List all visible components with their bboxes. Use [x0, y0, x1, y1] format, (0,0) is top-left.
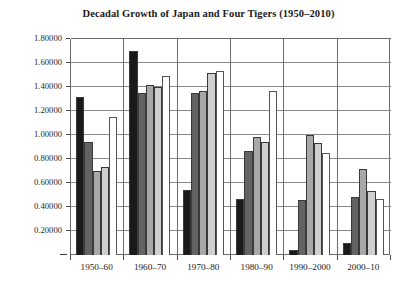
group-separator — [123, 39, 124, 255]
y-tick-label: 1.00000 — [8, 130, 62, 139]
bar — [367, 191, 375, 255]
y-tick-label: 0.80000 — [8, 154, 62, 163]
bar — [191, 93, 199, 255]
y-tick-label: 0.60000 — [8, 178, 62, 187]
y-tick-label: 1.20000 — [8, 106, 62, 115]
zero-dash — [60, 254, 67, 255]
x-tick-label: 2000–10 — [337, 262, 390, 272]
bar — [216, 71, 224, 255]
bar — [207, 73, 215, 255]
bar — [376, 199, 384, 255]
bar — [359, 169, 367, 255]
bar — [269, 91, 277, 255]
group-separator — [283, 39, 284, 255]
x-tick-mark — [123, 255, 124, 260]
y-tick-label: 0.20000 — [8, 226, 62, 235]
x-tick-mark — [177, 255, 178, 260]
bar — [306, 135, 314, 255]
bar — [93, 171, 101, 255]
bar — [129, 51, 137, 255]
bar — [183, 190, 191, 255]
bar — [314, 143, 322, 255]
bar — [351, 197, 359, 255]
bar — [109, 117, 117, 255]
bar — [162, 76, 170, 255]
bar — [76, 97, 84, 255]
bar — [84, 142, 92, 255]
x-tick-mark — [230, 255, 231, 260]
bar — [154, 87, 162, 255]
bar-group — [337, 39, 390, 255]
group-separator — [337, 39, 338, 255]
x-tick-label: 1970–80 — [177, 262, 230, 272]
x-tick-label: 1950–60 — [70, 262, 123, 272]
x-tick-label: 1990–2000 — [283, 262, 336, 272]
bar-group — [177, 39, 230, 255]
x-tick-label: 1960–70 — [123, 262, 176, 272]
chart-title: Decadal Growth of Japan and Four Tigers … — [0, 8, 417, 19]
y-tick-label: 1.80000 — [8, 34, 62, 43]
chart-figure: Decadal Growth of Japan and Four Tigers … — [0, 0, 417, 299]
bar — [101, 167, 109, 255]
bar-group — [230, 39, 283, 255]
x-tick-mark — [70, 255, 71, 260]
bar — [261, 142, 269, 255]
x-tick-label: 1980–90 — [230, 262, 283, 272]
bar — [138, 93, 146, 255]
bar — [236, 199, 244, 255]
group-separator — [177, 39, 178, 255]
bars-layer — [70, 39, 390, 255]
bar — [322, 153, 330, 255]
bar-group — [283, 39, 336, 255]
x-tick-mark — [283, 255, 284, 260]
x-tick-mark — [390, 255, 391, 260]
y-tick-label: 0.40000 — [8, 202, 62, 211]
bar — [146, 85, 154, 255]
group-separator — [230, 39, 231, 255]
x-tick-mark — [337, 255, 338, 260]
y-tick-label: 1.40000 — [8, 82, 62, 91]
bar — [244, 151, 252, 255]
bar-group — [70, 39, 123, 255]
bar — [289, 250, 297, 255]
bar-group — [123, 39, 176, 255]
bar — [298, 200, 306, 255]
bar — [253, 137, 261, 255]
y-tick-label: 1.60000 — [8, 58, 62, 67]
bar — [343, 243, 351, 255]
bar — [199, 91, 207, 255]
